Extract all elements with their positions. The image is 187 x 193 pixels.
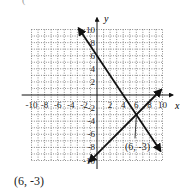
svg-text:x: x	[174, 100, 180, 111]
svg-text:-2: -2	[88, 103, 96, 113]
svg-text:10: 10	[158, 100, 168, 110]
svg-text:-4: -4	[88, 116, 96, 126]
svg-text:(6, -3): (6, -3)	[125, 141, 150, 153]
svg-text:2: 2	[91, 77, 96, 87]
svg-text:-6: -6	[88, 129, 96, 139]
svg-text:10: 10	[86, 25, 96, 35]
svg-text:-8: -8	[41, 100, 49, 110]
svg-text:2: 2	[108, 100, 113, 110]
svg-text:y: y	[103, 13, 109, 24]
svg-text:-8: -8	[88, 142, 96, 152]
svg-text:4: 4	[121, 100, 126, 110]
coordinate-graph: xy -10-8-6-4-2246810108642-2-4-6-8-10 (6…	[0, 0, 187, 172]
svg-text:-10: -10	[26, 100, 38, 110]
svg-text:6: 6	[134, 100, 139, 110]
answer-text: (6, -3)	[14, 174, 44, 189]
svg-text:-6: -6	[54, 100, 62, 110]
svg-text:-4: -4	[67, 100, 75, 110]
svg-text:4: 4	[91, 64, 96, 74]
